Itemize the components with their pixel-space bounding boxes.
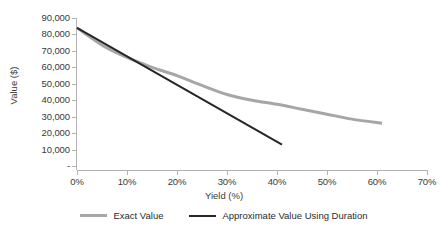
chart-plot-lines — [0, 0, 448, 241]
legend-swatch-icon — [189, 215, 216, 217]
legend-label: Approximate Value Using Duration — [222, 210, 367, 221]
legend-label: Exact Value — [113, 210, 163, 221]
legend-swatch-icon — [80, 214, 107, 217]
legend-item[interactable]: Approximate Value Using Duration — [189, 210, 367, 221]
series-line-exact-value — [77, 28, 382, 123]
chart-legend: Exact ValueApproximate Value Using Durat… — [0, 210, 448, 221]
legend-item[interactable]: Exact Value — [80, 210, 163, 221]
series-line-approximate-value — [77, 28, 282, 145]
chart-container: Value ($) 90,00080,00070,00060,00050,000… — [0, 0, 448, 241]
